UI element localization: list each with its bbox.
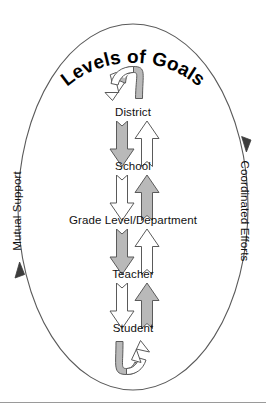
level-label-district: District bbox=[0, 106, 266, 118]
curved-arrow-top bbox=[105, 67, 143, 101]
level-label-student: Student bbox=[0, 322, 266, 334]
bottom-divider bbox=[0, 402, 266, 403]
level-label-school: School bbox=[0, 160, 266, 172]
level-label-teacher: Teacher bbox=[0, 268, 266, 280]
level-label-grade-level: Grade Level/Department bbox=[0, 214, 266, 226]
side-label-mutual-support: Mutual Support bbox=[11, 156, 23, 266]
enclosing-ellipse bbox=[18, 24, 248, 390]
side-label-coordinated-efforts: Coordinated Efforts bbox=[239, 141, 251, 281]
levels-of-goals-figure: Levels of Goals bbox=[0, 0, 266, 412]
figure-canvas: Levels of Goals bbox=[0, 0, 266, 412]
curved-arrow-bottom bbox=[116, 341, 150, 375]
